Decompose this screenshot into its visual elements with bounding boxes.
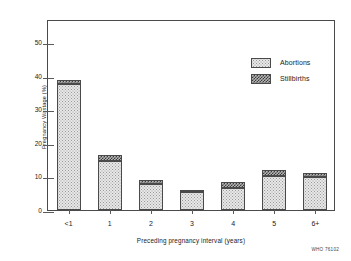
bar-segment-stillbirths	[303, 173, 327, 176]
bar-segment-abortions	[262, 176, 286, 210]
legend-swatch-stillbirths-icon	[251, 74, 271, 84]
bar-segment-stillbirths	[139, 180, 163, 185]
bar-segment-abortions	[303, 177, 327, 210]
x-tick-label: 3	[172, 220, 212, 227]
bar-segment-stillbirths	[98, 155, 122, 161]
bar-segment-stillbirths	[57, 80, 81, 84]
bar-1	[57, 80, 81, 210]
y-tick-mark	[48, 178, 54, 179]
bar-segment-stillbirths	[221, 182, 245, 187]
bar-7	[303, 173, 327, 210]
chart-legend: Abortions Stillbirths	[251, 57, 310, 89]
y-tick-mark	[48, 78, 54, 79]
y-tick-mark	[48, 44, 54, 45]
y-tick-mark-outer	[43, 44, 48, 45]
x-tick-label: 6+	[295, 220, 335, 227]
legend-item-stillbirths: Stillbirths	[251, 73, 310, 84]
legend-item-abortions: Abortions	[251, 57, 310, 68]
x-tick-label: <1	[49, 220, 89, 227]
bar-segment-stillbirths	[262, 170, 286, 176]
x-tick-mark	[110, 210, 111, 214]
chart-credit: WHO 76102	[311, 247, 339, 252]
x-tick-label: 2	[131, 220, 171, 227]
bar-segment-abortions	[98, 161, 122, 210]
bar-segment-abortions	[221, 188, 245, 210]
bar-segment-abortions	[57, 84, 81, 210]
y-tick-mark	[48, 111, 54, 112]
y-tick-mark	[48, 145, 54, 146]
y-tick-mark-outer	[43, 78, 48, 79]
bar-segment-abortions	[180, 192, 204, 210]
x-tick-label: 4	[213, 220, 253, 227]
x-tick-mark	[315, 210, 316, 214]
legend-label-abortions: Abortions	[280, 59, 310, 66]
x-tick-label: 1	[90, 220, 130, 227]
bar-segment-stillbirths	[180, 190, 204, 192]
y-tick-mark-outer	[43, 111, 48, 112]
plot-area: Pregnancy Wastage (%) 01020304050 <11234…	[47, 20, 335, 211]
bar-6	[262, 170, 286, 210]
chart-figure: Pregnancy Wastage (%) 01020304050 <11234…	[0, 0, 351, 261]
bar-3	[139, 180, 163, 210]
bar-5	[221, 182, 245, 210]
legend-swatch-abortions-icon	[251, 58, 271, 68]
y-tick-mark-outer	[43, 145, 48, 146]
x-tick-mark	[274, 210, 275, 214]
x-tick-mark	[233, 210, 234, 214]
x-tick-mark	[69, 210, 70, 214]
x-tick-mark	[151, 210, 152, 214]
x-tick-label: 5	[254, 220, 294, 227]
y-tick-mark	[48, 212, 54, 213]
bar-4	[180, 190, 204, 210]
bar-2	[98, 155, 122, 210]
legend-label-stillbirths: Stillbirths	[280, 75, 310, 82]
bar-segment-abortions	[139, 184, 163, 210]
x-tick-mark	[192, 210, 193, 214]
y-tick-mark-outer	[43, 178, 48, 179]
x-axis-title: Preceding pregnancy interval (years)	[47, 237, 335, 244]
y-tick-mark-outer	[43, 212, 48, 213]
